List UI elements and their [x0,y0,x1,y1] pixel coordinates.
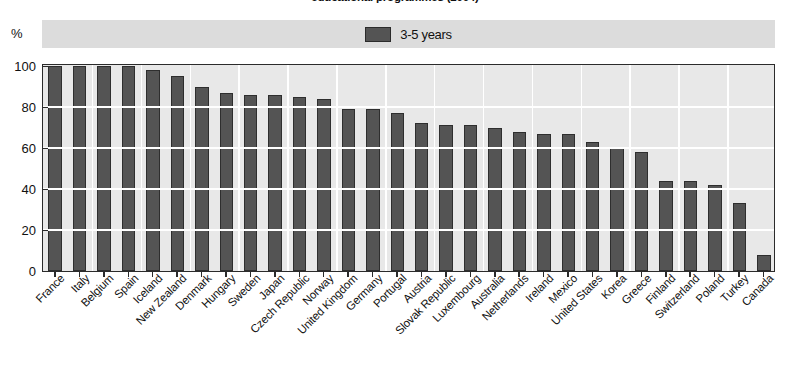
vertical-gridline [581,65,583,271]
legend-swatch-3-5-years [365,27,391,42]
x-tick-mark [592,272,594,277]
bar [244,95,257,271]
x-tick-mark [250,272,252,277]
x-tick-mark [201,272,203,277]
bar [366,109,379,271]
bar [195,87,208,272]
chart-title: educational programmes (2004) [0,0,790,3]
vertical-gridline [727,65,729,271]
x-tick-mark [396,272,398,277]
y-tick-label-80: 80 [6,99,36,114]
vertical-gridline [678,65,680,271]
vertical-gridline [92,65,94,271]
bar [635,152,648,271]
vertical-gridline [483,65,485,271]
vertical-gridline [190,65,192,271]
x-tick-mark [665,272,667,277]
x-tick-mark [494,272,496,277]
y-tick-label-100: 100 [6,58,36,73]
y-tick-mark-100 [42,66,48,68]
bar [391,113,404,271]
bar [684,181,697,271]
bar [659,181,672,271]
x-tick-mark [152,272,154,277]
bar [488,128,501,272]
x-tick-mark [616,272,618,277]
chart-container: educational programmes (2004) % 3-5 year… [0,0,790,389]
vertical-gridline [287,65,289,271]
vertical-gridline [141,65,143,271]
bar [757,255,770,271]
vertical-gridline [385,65,387,271]
vertical-gridline [238,65,240,271]
y-tick-mark-40 [42,189,48,191]
y-tick-mark-0 [42,271,48,273]
chart-legend: 3-5 years [42,20,775,48]
x-tick-mark [274,272,276,277]
vertical-gridline [434,65,436,271]
bar [342,109,355,271]
x-tick-mark [714,272,716,277]
gridline-20 [43,229,774,231]
plot-area [42,64,775,272]
bar [73,66,86,271]
bar [733,203,746,271]
x-tick-mark [763,272,765,277]
bar [537,134,550,271]
bar [122,66,135,271]
x-tick-mark [470,272,472,277]
y-axis: 020406080100 [0,64,36,272]
y-tick-mark-80 [42,107,48,109]
x-tick-mark [689,272,691,277]
bar [220,93,233,271]
y-tick-mark-20 [42,230,48,232]
bar [317,99,330,271]
x-tick-mark [299,272,301,277]
x-tick-mark [225,272,227,277]
x-tick-mark [372,272,374,277]
bar [97,66,110,271]
x-tick-mark [54,272,56,277]
x-tick-mark [79,272,81,277]
vertical-gridline [336,65,338,271]
y-tick-label-60: 60 [6,140,36,155]
x-tick-mark [323,272,325,277]
y-axis-unit-label: % [11,26,23,41]
x-tick-mark [103,272,105,277]
bar [293,97,306,271]
bar [268,95,281,271]
x-tick-mark [128,272,130,277]
gridline-60 [43,147,774,149]
vertical-gridline [629,65,631,271]
x-tick-mark [567,272,569,277]
x-axis-label: France [34,272,67,305]
bar [146,70,159,271]
x-tick-mark [445,272,447,277]
x-axis-labels: FranceItalyBelgiumSpainIcelandNew Zealan… [0,272,790,389]
bar [415,123,428,271]
gridline-40 [43,188,774,190]
y-tick-label-20: 20 [6,222,36,237]
x-tick-mark [176,272,178,277]
bar [708,185,721,271]
y-tick-label-40: 40 [6,181,36,196]
bars-layer [43,65,774,271]
bar [48,66,61,271]
x-tick-mark [543,272,545,277]
gridline-80 [43,106,774,108]
y-tick-mark-60 [42,148,48,150]
bar [586,142,599,271]
bar [513,132,526,271]
x-tick-mark [347,272,349,277]
bar [610,148,623,271]
x-tick-mark [518,272,520,277]
legend-label-3-5-years: 3-5 years [400,27,452,42]
x-tick-mark [641,272,643,277]
bar [562,134,575,271]
vertical-gridline [532,65,534,271]
x-tick-mark [421,272,423,277]
x-tick-mark [738,272,740,277]
